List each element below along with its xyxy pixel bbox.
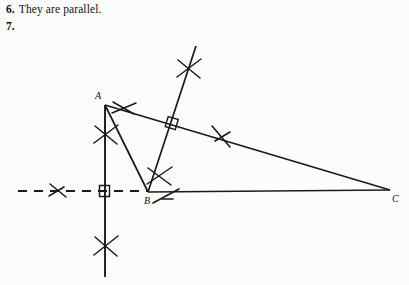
arc-mark-on-ac-right <box>212 126 230 147</box>
segment-ac <box>105 105 390 190</box>
arc-mark-above-b <box>147 167 172 185</box>
arc-mark-vertical-upper <box>94 125 118 144</box>
worksheet-page: 6.They are parallel. 7. <box>0 0 409 285</box>
point-label-b: B <box>144 195 150 206</box>
segment-bc <box>148 190 390 192</box>
point-label-c: C <box>392 193 399 204</box>
segment-ab <box>105 105 148 192</box>
point-label-a: A <box>94 90 102 101</box>
geometry-figure: A B C <box>0 0 409 285</box>
arc-mark-vertical-lower <box>94 236 118 256</box>
arc-mark-on-ray-top <box>177 59 201 78</box>
